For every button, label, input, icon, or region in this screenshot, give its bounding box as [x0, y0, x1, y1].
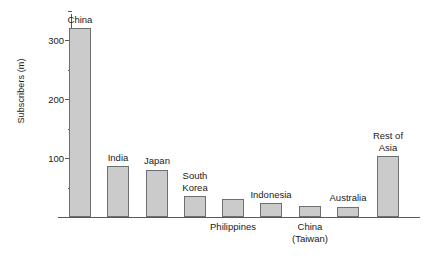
bar-label: China (Taiwan): [272, 221, 348, 244]
bar: [184, 196, 206, 217]
y-tick-minor: [68, 11, 72, 12]
bar-label: Rest of Asia: [350, 130, 426, 153]
x-axis-line: [58, 217, 420, 218]
bar: [377, 156, 399, 217]
bar: [260, 203, 282, 217]
bar: [299, 206, 321, 217]
y-tick-label: 100: [30, 153, 64, 164]
y-axis-title: Subscribers (m): [16, 26, 26, 156]
y-tick-label: 300: [30, 35, 64, 46]
bar: [69, 28, 91, 217]
bar-label: Japan: [119, 155, 195, 167]
bar-label: Indonesia: [233, 189, 309, 201]
bar-label: China: [42, 14, 118, 26]
bar-label: South Korea: [157, 170, 233, 193]
bar-chart: Subscribers (m) 100200300 ChinaIndiaJapa…: [0, 0, 426, 263]
bar: [337, 207, 359, 217]
bar: [107, 166, 129, 217]
bar: [222, 199, 244, 217]
bar-label: Australia: [310, 192, 386, 204]
bar-label: Philippines: [195, 221, 271, 233]
y-tick-label: 200: [30, 94, 64, 105]
